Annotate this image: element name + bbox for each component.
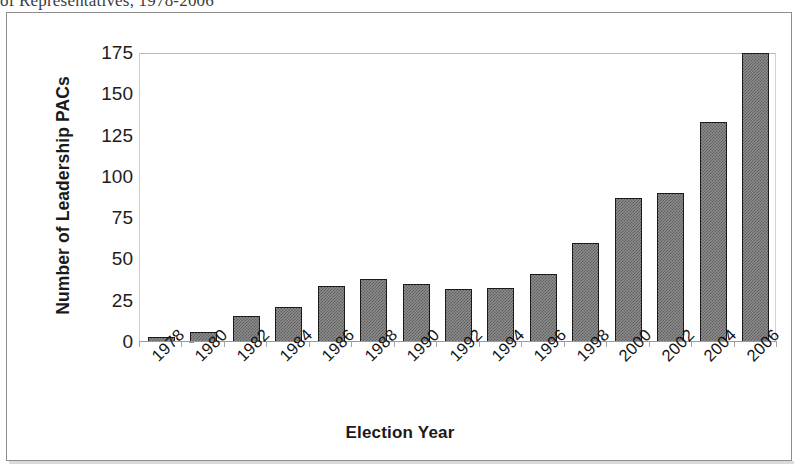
bar-chart: Number of Leadership PACs 02550751001251… (7, 13, 793, 462)
bar-slot (480, 54, 522, 342)
bar-slot (352, 54, 394, 342)
y-axis-tick-label: 100 (69, 167, 133, 186)
bar-slot (607, 54, 649, 342)
figure-frame: Number of Leadership PACs 02550751001251… (6, 12, 792, 461)
bar-slot (267, 54, 309, 342)
y-axis-tick-label: 175 (69, 43, 133, 62)
bar-slot (182, 54, 224, 342)
bar-2006[interactable] (742, 53, 769, 342)
bar-slot (140, 54, 182, 342)
bar-2000[interactable] (615, 198, 642, 342)
bar-slot (437, 54, 479, 342)
y-axis-tick-labels: 0255075100125150175 (61, 13, 133, 462)
plot-area (139, 53, 776, 342)
x-axis-tick-mark (139, 342, 140, 347)
bar-slot (692, 54, 734, 342)
bar-1998[interactable] (572, 243, 599, 342)
y-axis-tick-mark (189, 342, 194, 343)
bar-2002[interactable] (657, 193, 684, 342)
clipped-caption-text: of Representatives, 1978-2006 (0, 0, 400, 11)
bar-slot (650, 54, 692, 342)
bar-slot (735, 54, 777, 342)
y-axis-tick-label: 75 (69, 208, 133, 227)
bar-slot (225, 54, 267, 342)
bar-2004[interactable] (700, 122, 727, 342)
bar-slot (395, 54, 437, 342)
y-axis-tick-label: 0 (69, 332, 133, 351)
y-axis-tick-label: 25 (69, 291, 133, 310)
x-axis-title: Election Year (7, 423, 793, 443)
y-axis-tick-label: 125 (69, 126, 133, 145)
y-axis-tick-label: 50 (69, 249, 133, 268)
y-axis-tick-label: 150 (69, 84, 133, 103)
bar-slot (310, 54, 352, 342)
bar-slot (565, 54, 607, 342)
bar-slot (522, 54, 564, 342)
